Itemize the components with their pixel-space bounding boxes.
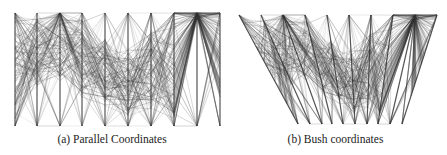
parallel-coordinates-panel: (a) Parallel Coordinates [0, 0, 224, 155]
parallel-coordinates-plot [0, 0, 224, 135]
caption-parallel-coordinates: (a) Parallel Coordinates [0, 133, 224, 145]
bush-coordinates-plot [224, 0, 447, 135]
caption-bush-coordinates: (b) Bush coordinates [224, 133, 447, 145]
bush-coordinates-panel: (b) Bush coordinates [224, 0, 447, 155]
